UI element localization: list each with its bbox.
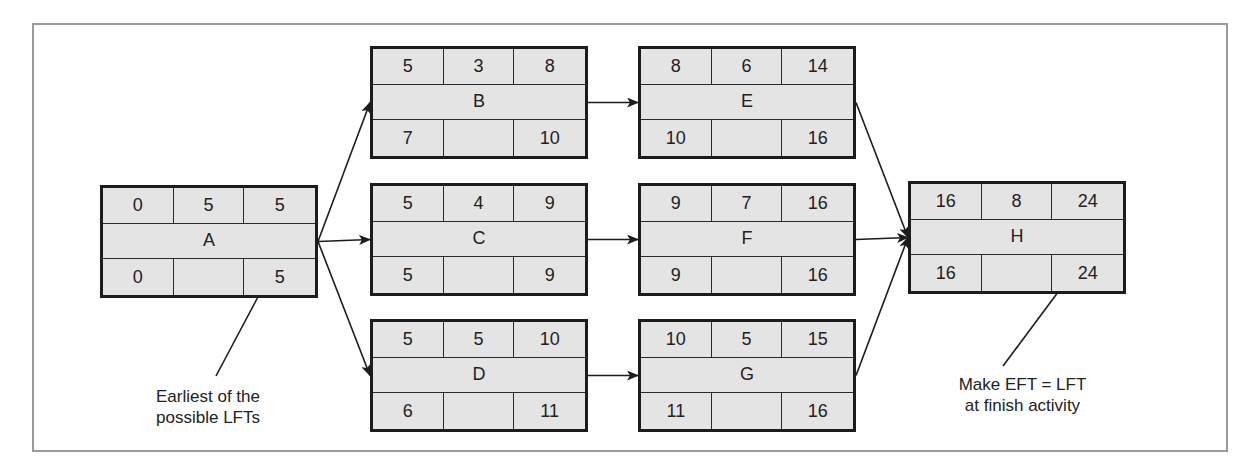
annotation-line: possible LFTs [108,407,308,428]
cell-slack [712,257,783,293]
cell-duration: 5 [712,322,783,357]
node-top-row: 9716 [641,186,853,222]
node-top-row: 8614 [641,49,853,85]
node-label-row: F [641,222,853,258]
cell-lft: 5 [244,259,315,295]
activity-label: E [641,85,853,120]
cell-est: 5 [373,322,444,357]
node-top-row: 538 [373,49,585,85]
cell-lft: 11 [514,393,585,429]
node-bottom-row: 1624 [911,255,1123,291]
node-label-row: G [641,358,853,394]
cell-lft: 24 [1052,255,1123,291]
node-b: 538B710 [370,46,588,159]
annotation-line: at finish activity [920,395,1125,416]
activity-label: B [373,85,585,120]
cell-slack [444,393,515,429]
cell-lst: 10 [641,120,712,156]
node-a: 055A05 [100,185,318,298]
cell-duration: 6 [712,49,783,84]
cell-lft: 16 [782,393,853,429]
cell-slack [174,259,245,295]
node-label-row: H [911,220,1123,256]
cell-slack [444,257,515,293]
cell-est: 8 [641,49,712,84]
activity-label: A [103,224,315,259]
node-top-row: 055 [103,188,315,224]
cell-lft: 10 [514,120,585,156]
cell-slack [982,255,1053,291]
cell-eft: 10 [514,322,585,357]
cell-lft: 16 [782,120,853,156]
node-top-row: 549 [373,186,585,222]
cell-lst: 16 [911,255,982,291]
annotation-make-eft-lft: Make EFT = LFT at finish activity [920,374,1125,416]
annotation-line: Earliest of the [108,386,308,407]
cell-lst: 9 [641,257,712,293]
cell-lst: 0 [103,259,174,295]
cell-lft: 16 [782,257,853,293]
node-label-row: C [373,222,585,258]
node-bottom-row: 59 [373,257,585,293]
node-h: 16824H1624 [908,181,1126,294]
node-d: 5510D611 [370,319,588,432]
node-bottom-row: 710 [373,120,585,156]
annotation-earliest-lft: Earliest of the possible LFTs [108,386,308,428]
node-label-row: D [373,358,585,394]
cell-eft: 24 [1052,184,1123,219]
node-top-row: 5510 [373,322,585,358]
cell-duration: 7 [712,186,783,221]
cell-slack [712,120,783,156]
cell-lst: 7 [373,120,444,156]
node-g: 10515G1116 [638,319,856,432]
activity-label: G [641,358,853,393]
cell-est: 0 [103,188,174,223]
node-bottom-row: 611 [373,393,585,429]
cell-est: 5 [373,186,444,221]
node-c: 549C59 [370,183,588,296]
cell-eft: 16 [782,186,853,221]
cell-duration: 8 [982,184,1053,219]
node-e: 8614E1016 [638,46,856,159]
activity-label: C [373,222,585,257]
node-bottom-row: 1016 [641,120,853,156]
node-bottom-row: 05 [103,259,315,295]
cell-est: 5 [373,49,444,84]
node-label-row: E [641,85,853,121]
activity-label: F [641,222,853,257]
node-label-row: B [373,85,585,121]
cell-lst: 6 [373,393,444,429]
cell-lft: 9 [514,257,585,293]
cell-eft: 5 [244,188,315,223]
cell-lst: 5 [373,257,444,293]
node-label-row: A [103,224,315,260]
cell-duration: 3 [444,49,515,84]
cell-est: 16 [911,184,982,219]
cell-lst: 11 [641,393,712,429]
node-f: 9716F916 [638,183,856,296]
node-bottom-row: 916 [641,257,853,293]
cell-slack [712,393,783,429]
cell-slack [444,120,515,156]
cell-est: 9 [641,186,712,221]
cell-eft: 15 [782,322,853,357]
node-top-row: 16824 [911,184,1123,220]
cell-eft: 8 [514,49,585,84]
cell-est: 10 [641,322,712,357]
cell-duration: 5 [444,322,515,357]
node-top-row: 10515 [641,322,853,358]
cell-duration: 5 [174,188,245,223]
node-bottom-row: 1116 [641,393,853,429]
cell-eft: 9 [514,186,585,221]
annotation-line: Make EFT = LFT [920,374,1125,395]
cell-eft: 14 [782,49,853,84]
activity-label: H [911,220,1123,255]
activity-label: D [373,358,585,393]
cell-duration: 4 [444,186,515,221]
